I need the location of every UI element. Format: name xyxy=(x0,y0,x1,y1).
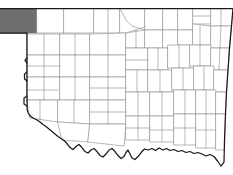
county-nowata-craig[interactable] xyxy=(211,9,233,27)
county-mayes-delaware[interactable] xyxy=(211,26,232,48)
map-canvas xyxy=(0,0,233,175)
county-noble[interactable] xyxy=(145,30,163,48)
county-garfield[interactable] xyxy=(126,30,145,48)
county-kay[interactable] xyxy=(178,9,193,31)
county-osage-south[interactable] xyxy=(178,30,193,45)
county-tillman[interactable] xyxy=(88,124,126,146)
county-cimarron[interactable] xyxy=(0,9,37,34)
highlighted-county-group[interactable] xyxy=(0,9,37,34)
county-ellis[interactable] xyxy=(27,34,60,55)
county-okmulgee[interactable] xyxy=(190,45,211,66)
county-latimer[interactable] xyxy=(216,92,227,114)
county-texas[interactable] xyxy=(37,9,64,34)
county-beaver[interactable] xyxy=(64,9,94,34)
county-kingfisher[interactable] xyxy=(126,48,148,70)
oklahoma-county-map-figure xyxy=(0,0,233,175)
county-grant[interactable] xyxy=(163,9,178,31)
county-haskell-leflore[interactable] xyxy=(214,70,228,92)
county-rogers[interactable] xyxy=(193,24,211,45)
county-alfalfa[interactable] xyxy=(145,9,163,31)
county-harper[interactable] xyxy=(94,9,120,34)
county-beckham[interactable] xyxy=(27,77,60,100)
